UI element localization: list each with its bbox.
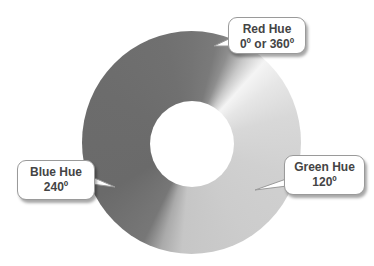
callout-red-hue: Red Hue 0º or 360º	[228, 17, 306, 54]
callout-value: 0º or 360º	[229, 37, 305, 52]
callout-title: Blue Hue	[18, 165, 94, 180]
callout-blue-hue: Blue Hue 240º	[17, 160, 95, 200]
callout-tails	[0, 0, 374, 266]
callout-green-hue: Green Hue 120º	[284, 155, 365, 195]
callout-value: 240º	[18, 180, 94, 195]
callout-value: 120º	[285, 175, 364, 190]
callout-title: Green Hue	[285, 160, 364, 175]
callout-title: Red Hue	[229, 22, 305, 37]
